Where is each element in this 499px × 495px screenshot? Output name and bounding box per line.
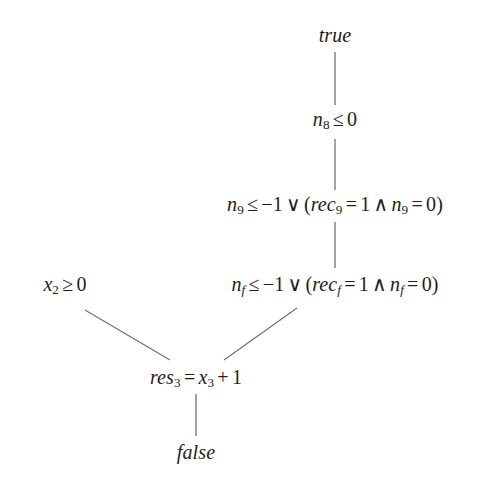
node-true-label: true xyxy=(319,24,352,46)
x2-variable: x xyxy=(43,273,52,295)
n9-open-paren: ( xyxy=(304,193,311,215)
nf-open-paren: ( xyxy=(305,273,312,295)
edge-layer xyxy=(0,0,499,495)
nf-rec-relation-operator: = xyxy=(341,273,359,295)
nf-right-relation-operator: = xyxy=(404,273,422,295)
nf-rec-value: 1 xyxy=(359,273,369,295)
derivation-tree-diagram: true n8≤0 n9≤−1∨(rec9=1∧n9=0) nf≤−1∨(rec… xyxy=(0,0,499,495)
n9-right-variable: n xyxy=(392,193,402,215)
n9-rec-value: 1 xyxy=(360,193,370,215)
node-false-label: false xyxy=(177,441,215,463)
n9-right-relation-operator: = xyxy=(408,193,426,215)
res3-lhs-subscript: 3 xyxy=(174,375,181,390)
node-true: true xyxy=(319,25,352,45)
n9-close-paren: ) xyxy=(436,193,443,215)
nf-rec-subscript: f xyxy=(337,282,341,297)
n9-left-subscript: 9 xyxy=(237,202,244,217)
res3-lhs-variable: res xyxy=(150,366,174,388)
res3-addend: 1 xyxy=(232,366,242,388)
nf-left-relation-operator: ≤ xyxy=(245,273,262,295)
nf-left-value: −1 xyxy=(263,273,284,295)
n9-left-relation-operator: ≤ xyxy=(244,193,261,215)
node-n8-le-0: n8≤0 xyxy=(313,109,357,132)
nf-or-connective: ∨ xyxy=(284,273,305,295)
res3-plus-operator: + xyxy=(214,366,232,388)
n8-variable: n xyxy=(313,108,323,130)
node-x2-ge-0: x2≥0 xyxy=(43,274,86,297)
n9-rec-relation-operator: = xyxy=(343,193,361,215)
edge-nf-to-res3 xyxy=(224,308,297,360)
res3-relation-operator: = xyxy=(181,366,199,388)
nf-left-variable: n xyxy=(231,273,241,295)
x2-value: 0 xyxy=(77,273,87,295)
n8-value: 0 xyxy=(347,108,357,130)
nf-right-variable: n xyxy=(390,273,400,295)
nf-rec-variable: rec xyxy=(312,273,337,295)
n9-left-value: −1 xyxy=(261,193,282,215)
node-res3-assignment: res3=x3+1 xyxy=(150,367,242,390)
node-nf-disjunction: nf≤−1∨(recf=1∧nf=0) xyxy=(231,274,438,297)
n9-rec-variable: rec xyxy=(311,193,336,215)
n9-or-connective: ∨ xyxy=(283,193,304,215)
nf-right-value: 0 xyxy=(422,273,432,295)
nf-and-connective: ∧ xyxy=(369,273,390,295)
node-n9-disjunction: n9≤−1∨(rec9=1∧n9=0) xyxy=(227,194,443,217)
n9-right-value: 0 xyxy=(426,193,436,215)
n9-left-variable: n xyxy=(227,193,237,215)
x2-relation-operator: ≥ xyxy=(59,273,76,295)
edge-x2-to-res3 xyxy=(85,310,170,360)
nf-close-paren: ) xyxy=(432,273,439,295)
n9-and-connective: ∧ xyxy=(370,193,391,215)
node-false: false xyxy=(177,442,215,462)
n8-relation-operator: ≤ xyxy=(330,108,347,130)
n8-subscript: 8 xyxy=(323,117,330,132)
x2-subscript: 2 xyxy=(52,282,59,297)
